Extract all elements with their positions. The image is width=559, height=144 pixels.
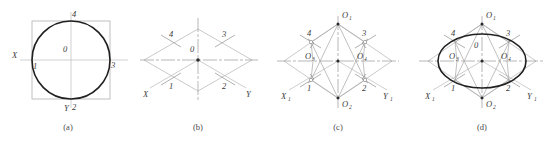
center-dot	[196, 58, 200, 62]
label-arc-center-o3: O 3	[305, 51, 315, 62]
construction-o1-to-p1	[455, 24, 482, 80]
panel-a-circle-in-square: X Y 0 1 2 3 4	[0, 0, 140, 120]
tangent-point-2	[363, 78, 366, 81]
svg-text:O: O	[357, 51, 363, 61]
label-arc-center-o2: O 2	[342, 99, 352, 110]
arc-center-o2-dot	[481, 97, 484, 100]
label-arc-center-o3: O 3	[449, 51, 459, 62]
label-center: 0	[190, 44, 195, 54]
caption-c: (c)	[318, 122, 358, 132]
svg-text:Y: Y	[527, 91, 533, 101]
label-arc-center-o4: O 4	[357, 51, 367, 62]
svg-text:O: O	[486, 99, 492, 109]
arc-center-o1-dot	[481, 23, 484, 26]
caption-b: (b)	[178, 122, 218, 132]
label-axis-y1: Y 1	[383, 91, 393, 102]
svg-text:2: 2	[349, 104, 352, 110]
arc-center-o1-dot	[337, 23, 340, 26]
svg-text:O: O	[342, 99, 348, 109]
label-axis-x1: X 1	[424, 91, 435, 102]
construction-o2-to-p4	[311, 42, 338, 98]
svg-text:2: 2	[493, 104, 496, 110]
svg-text:3: 3	[455, 56, 459, 62]
label-arc-center-o1: O 1	[486, 10, 496, 21]
label-point-4: 4	[307, 28, 312, 38]
label-point-1: 1	[307, 83, 311, 93]
label-arc-center-o4: O 4	[501, 51, 511, 62]
svg-text:O: O	[501, 51, 507, 61]
label-point-2: 2	[72, 102, 77, 112]
tangent-point-4	[309, 40, 312, 43]
svg-text:1: 1	[493, 15, 496, 21]
svg-text:4: 4	[508, 56, 511, 62]
label-point-1: 1	[451, 83, 455, 93]
svg-text:1: 1	[534, 96, 537, 102]
label-arc-center-o1: O 1	[342, 10, 352, 21]
svg-text:1: 1	[432, 96, 435, 102]
svg-text:X: X	[424, 91, 431, 101]
label-point-3: 3	[110, 60, 115, 70]
label-axis-x: X	[142, 89, 149, 99]
label-axis-x1: X 1	[280, 91, 291, 102]
svg-text:Y: Y	[383, 91, 389, 101]
tangent-point-3	[363, 40, 366, 43]
caption-d: (d)	[462, 122, 502, 132]
label-point-3: 3	[361, 28, 366, 38]
center-dot	[336, 59, 339, 62]
arc-center-o2-dot	[337, 97, 340, 100]
svg-text:O: O	[342, 10, 348, 20]
panel-c-arc-centers: X 1 Y 1 O 1 O 2 O 3 O 4 1 2 3 4	[273, 0, 405, 120]
svg-text:1: 1	[288, 96, 291, 102]
svg-text:X: X	[280, 91, 287, 101]
label-arc-center-o2: O 2	[486, 99, 496, 110]
label-axis-y: Y	[64, 103, 70, 113]
construction-o1-to-p1	[311, 24, 338, 80]
label-center: 0	[63, 44, 68, 54]
caption-a: (a)	[48, 122, 88, 132]
label-axis-y: Y	[246, 89, 252, 99]
axis-x1	[150, 60, 198, 88]
svg-text:O: O	[305, 51, 311, 61]
label-point-4: 4	[451, 28, 456, 38]
center-dot	[480, 59, 483, 62]
figure-isometric-ellipse-construction: X Y 0 1 2 3 4 X Y 0 1 2 3 4	[0, 0, 559, 144]
label-point-1: 1	[33, 61, 37, 71]
label-point-3: 3	[505, 28, 510, 38]
label-point-4: 4	[72, 9, 77, 19]
label-point-3: 3	[221, 29, 226, 39]
construction-o2-to-p4	[455, 42, 482, 98]
svg-text:1: 1	[349, 15, 352, 21]
label-axis-y1: Y 1	[527, 91, 537, 102]
label-point-1: 1	[169, 81, 173, 91]
svg-text:4: 4	[364, 56, 367, 62]
label-point-2: 2	[222, 81, 227, 91]
label-point-4: 4	[169, 29, 174, 39]
label-point-2: 2	[362, 83, 367, 93]
tangent-point-1	[309, 78, 312, 81]
svg-text:1: 1	[390, 96, 393, 102]
label-center: 0	[474, 40, 479, 50]
panel-b-isometric-rhombus: X Y 0 1 2 3 4	[138, 0, 264, 120]
panel-d-completed-ellipse: X 1 Y 1 O 1 O 2 O 3 O 4 0 1 2 3 4	[413, 0, 559, 120]
svg-text:3: 3	[311, 56, 315, 62]
label-axis-x: X	[11, 50, 18, 60]
svg-text:O: O	[449, 51, 455, 61]
label-point-2: 2	[506, 83, 511, 93]
svg-text:O: O	[486, 10, 492, 20]
